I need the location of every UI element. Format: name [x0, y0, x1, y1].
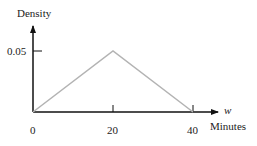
y-axis-label: Density	[17, 7, 52, 19]
x-variable-label: w	[224, 104, 232, 116]
density-chart: Density 0.05 0 20 40 w Minutes	[0, 0, 257, 146]
y-tick-label: 0.05	[7, 45, 27, 57]
x-tick-label-40: 40	[187, 124, 199, 136]
density-line	[33, 51, 193, 112]
x-tick-label-20: 20	[107, 124, 119, 136]
x-axis-label: Minutes	[210, 120, 246, 132]
x-tick-label-0: 0	[30, 124, 36, 136]
